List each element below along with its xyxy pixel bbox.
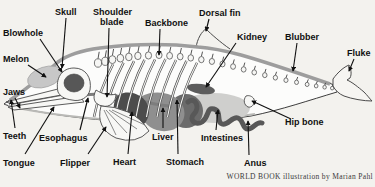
vertebra: [284, 78, 288, 83]
leader-fluke: [349, 59, 354, 71]
leader-anus: [248, 121, 249, 155]
whale-anatomy-figure: BlowholeSkullShoulderbladeBackboneDorsal…: [0, 0, 375, 187]
fluke-shape: [333, 65, 372, 101]
vertebra: [109, 56, 116, 64]
label-text-shoulder-blade: blade: [100, 17, 124, 27]
label-text-skull: Skull: [55, 7, 77, 17]
label-text-anus: Anus: [244, 158, 267, 168]
vertebra: [323, 85, 326, 89]
vertebra: [117, 54, 124, 62]
vertebra: [305, 82, 309, 86]
label-text-fluke: Fluke: [347, 48, 371, 58]
brain-organ: [64, 74, 84, 92]
label-text-kidney: Kidney: [237, 32, 267, 42]
vertebra: [295, 80, 299, 84]
label-dorsal-fin: Dorsal fin: [199, 8, 241, 31]
leader-flipper: [88, 127, 106, 154]
label-text-shoulder-blade: Shoulder: [93, 7, 132, 17]
vertebra: [314, 84, 318, 88]
label-text-blubber: Blubber: [285, 32, 319, 42]
leader-blubber: [293, 43, 297, 71]
vertebra: [263, 73, 267, 78]
leader-dorsal-fin: [206, 19, 209, 31]
label-text-heart: Heart: [113, 157, 136, 167]
vertebra: [241, 67, 246, 72]
vertebra: [177, 53, 183, 60]
vertebra: [252, 70, 257, 75]
vertebra: [126, 53, 133, 61]
label-text-blowhole: Blowhole: [3, 28, 43, 38]
label-text-melon: Melon: [3, 54, 29, 64]
label-blubber: Blubber: [285, 32, 319, 71]
vertebra: [231, 64, 236, 70]
vertebra: [135, 52, 141, 59]
vertebra: [199, 57, 204, 63]
vertebra: [209, 58, 214, 64]
vertebra: [94, 59, 101, 67]
vertebra: [273, 75, 277, 80]
vertebra: [167, 52, 173, 59]
label-text-flipper: Flipper: [60, 158, 90, 168]
label-text-esophagus: Esophagus: [39, 133, 88, 143]
label-text-teeth: Teeth: [3, 131, 26, 141]
label-text-jaws: Jaws: [3, 87, 25, 97]
label-text-backbone: Backbone: [145, 18, 188, 28]
label-text-liver: Liver: [152, 132, 174, 142]
label-text-intestines: Intestines: [201, 133, 243, 143]
label-text-dorsal-fin: Dorsal fin: [199, 8, 241, 18]
leader-tongue: [25, 107, 54, 154]
vertebra: [188, 55, 194, 61]
label-fluke: Fluke: [347, 48, 371, 71]
label-text-tongue: Tongue: [3, 158, 35, 168]
credit-line: WORLD BOOK illustration by Marian Pahl: [227, 172, 373, 181]
vertebra: [145, 52, 151, 59]
label-text-stomach: Stomach: [166, 157, 204, 167]
whale-illustration: BlowholeSkullShoulderbladeBackboneDorsal…: [0, 0, 375, 187]
